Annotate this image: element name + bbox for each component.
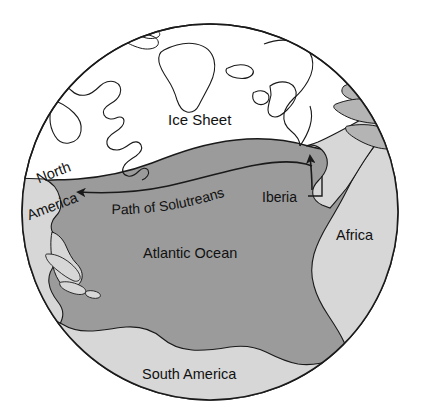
mediterranean-landforms xyxy=(342,80,399,102)
laurentide-west-lobe xyxy=(18,98,41,138)
globe-illustration: Path of Solutreans xyxy=(0,0,421,418)
globe-map-figure: Path of Solutreans Ice Sheet Atlantic Oc… xyxy=(0,0,421,418)
